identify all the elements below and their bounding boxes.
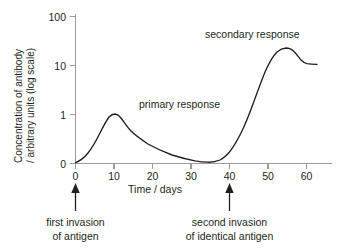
second-invasion-arrow xyxy=(225,183,233,211)
x-tick-label-10: 10 xyxy=(108,170,120,182)
y-tick-label-1: 1 xyxy=(60,109,66,121)
annotation-primary-response: primary response xyxy=(139,98,220,110)
first-invasion-arrow xyxy=(71,183,79,211)
y-axis-ticks xyxy=(70,17,76,164)
x-axis-tick-labels: 0 10 20 30 40 50 60 xyxy=(73,170,313,182)
y-tick-label-0: 0 xyxy=(60,158,66,170)
x-tick-label-60: 60 xyxy=(301,170,313,182)
second-invasion-line1: second invasion xyxy=(192,216,267,228)
y-axis-title-line1: Concentration of antibody xyxy=(13,49,24,163)
y-axis-title-line2: / arbitrary units (log scale) xyxy=(25,48,36,163)
second-invasion-callout: second invasion of identical antigen xyxy=(186,216,274,242)
first-invasion-callout: first invasion of antigen xyxy=(46,216,105,242)
first-invasion-line2: of antigen xyxy=(52,230,98,242)
x-tick-label-50: 50 xyxy=(262,170,274,182)
x-tick-label-40: 40 xyxy=(224,170,236,182)
chart-svg: Concentration of antibody / arbitrary un… xyxy=(0,0,339,250)
y-axis-title: Concentration of antibody / arbitrary un… xyxy=(13,48,36,163)
annotation-secondary-response: secondary response xyxy=(205,28,300,40)
x-tick-label-0: 0 xyxy=(73,170,79,182)
second-invasion-line2: of identical antigen xyxy=(186,230,274,242)
x-axis-title: Time / days xyxy=(128,183,182,195)
antibody-response-chart: Concentration of antibody / arbitrary un… xyxy=(0,0,339,250)
first-invasion-line1: first invasion xyxy=(46,216,105,228)
x-tick-label-20: 20 xyxy=(147,170,159,182)
y-axis-tick-labels: 100 10 1 0 xyxy=(48,11,66,170)
x-tick-label-30: 30 xyxy=(185,170,197,182)
y-tick-label-100: 100 xyxy=(48,11,66,23)
y-tick-label-10: 10 xyxy=(54,60,66,72)
x-axis-ticks xyxy=(76,164,307,170)
